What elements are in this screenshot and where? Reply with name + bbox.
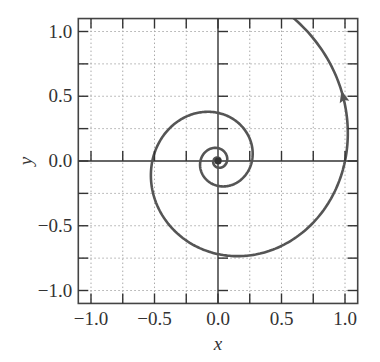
x-axis-label: x (213, 333, 223, 354)
y-tick-labels: −1.0−0.50.00.51.0 (38, 21, 72, 301)
x-tick-label: −0.5 (137, 308, 171, 329)
y-tick-label: 0.5 (49, 85, 73, 106)
x-tick-label: 1.0 (333, 308, 357, 329)
y-axis-label: y (15, 156, 36, 167)
x-tick-labels: −1.0−0.50.00.51.0 (74, 308, 357, 329)
fixed-point-marker (215, 158, 222, 165)
x-tick-label: 0.5 (270, 308, 294, 329)
y-tick-label: 0.0 (49, 150, 73, 171)
x-tick-label: 0.0 (206, 308, 230, 329)
phase-portrait-chart: −1.0−0.50.00.51.0 −1.0−0.50.00.51.0 x y (0, 0, 380, 362)
y-tick-label: −1.0 (38, 280, 72, 301)
y-tick-label: −0.5 (38, 215, 72, 236)
y-tick-label: 1.0 (49, 21, 73, 42)
x-tick-label: −1.0 (74, 308, 108, 329)
